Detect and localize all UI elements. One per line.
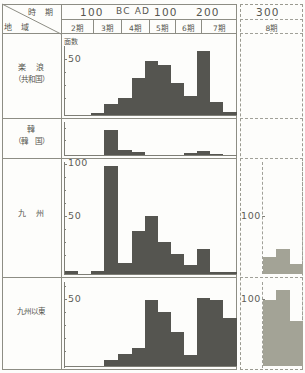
baseline-rakuro bbox=[64, 115, 237, 116]
region-label-east-kyushu-main: 九州以東 bbox=[2, 306, 60, 318]
bar-rakuro-4 bbox=[104, 104, 118, 115]
bar-rakuro-5 bbox=[118, 98, 132, 115]
period-cell-3: 3期 bbox=[93, 22, 121, 33]
baseline-kyushu bbox=[64, 274, 237, 275]
bar-rakuro-12 bbox=[210, 102, 223, 115]
bar-east-12 bbox=[210, 300, 223, 366]
row-sep-right-3 bbox=[240, 277, 303, 278]
region-column-separator bbox=[61, 33, 62, 370]
year-label-300ad: 300 bbox=[256, 6, 280, 18]
bar-kyushu-8 bbox=[158, 242, 171, 274]
region-label-kyushu: 九 州 bbox=[2, 208, 60, 220]
bar-han-11 bbox=[197, 151, 210, 155]
bar-east-13 bbox=[223, 318, 237, 366]
bar-kyushu-12 bbox=[210, 272, 223, 274]
bar-han-12 bbox=[210, 154, 223, 155]
period-sep-2-3 bbox=[93, 19, 94, 33]
bar-han-6 bbox=[132, 152, 145, 155]
bar-kyushu-11 bbox=[197, 249, 210, 274]
bar-kyushu-10 bbox=[184, 265, 197, 274]
bar-east-11 bbox=[197, 298, 210, 366]
region-label-kyushu-main: 九 州 bbox=[2, 208, 60, 220]
bar-east-5 bbox=[118, 354, 132, 366]
bar-kyushu-p8-3 bbox=[290, 264, 303, 274]
plot-panel-kyushu-period8 bbox=[263, 160, 303, 274]
plot-panel-east-period8 bbox=[263, 283, 303, 366]
bar-east-p8-1 bbox=[263, 300, 276, 366]
row-sep-right-1 bbox=[240, 118, 303, 119]
year-label-100bc: 100 bbox=[80, 6, 104, 18]
period-sep-4-5 bbox=[149, 19, 150, 33]
period-cell-4: 4期 bbox=[121, 22, 149, 33]
bar-east-6 bbox=[132, 348, 145, 366]
row-sep-rakuro-han bbox=[2, 118, 237, 119]
bar-rakuro-3 bbox=[91, 113, 104, 115]
header-rule-top-right bbox=[240, 19, 303, 20]
row-sep-right-2 bbox=[240, 158, 303, 159]
row-sep-han-kyushu bbox=[2, 158, 237, 159]
bar-east-7 bbox=[145, 300, 158, 366]
bar-han-5 bbox=[118, 150, 132, 155]
bar-han-10 bbox=[184, 153, 197, 155]
y-tick-label-right-east-100: 100 bbox=[241, 293, 261, 304]
bar-han-4 bbox=[104, 130, 118, 155]
bar-east-10 bbox=[184, 355, 197, 366]
period-sep-5-6 bbox=[175, 19, 176, 33]
figure-sheet: 時 期 地 域 100 BC AD 100 200 300 2期 3期 4期 5… bbox=[0, 0, 305, 373]
plot-panel-kyushu bbox=[65, 160, 237, 274]
period-sep-left-edge bbox=[61, 4, 62, 33]
region-label-han-sub: （韓 国） bbox=[2, 136, 60, 148]
bar-kyushu-1 bbox=[65, 271, 78, 274]
bar-rakuro-8 bbox=[158, 65, 171, 115]
period-cell-8: 8期 bbox=[240, 22, 303, 33]
region-label-rakuro: 楽 浪 （共和国） bbox=[2, 62, 60, 86]
bar-rakuro-6 bbox=[132, 78, 145, 115]
year-label-200ad: 200 bbox=[196, 6, 220, 18]
region-label-rakuro-sub: （共和国） bbox=[2, 74, 60, 86]
bar-kyushu-9 bbox=[171, 254, 184, 274]
period-cell-7: 7期 bbox=[201, 22, 237, 33]
bar-east-4 bbox=[104, 360, 118, 366]
bar-kyushu-4 bbox=[104, 166, 118, 274]
plot-panel-rakuro bbox=[65, 40, 237, 115]
bar-kyushu-p8-1 bbox=[263, 257, 276, 274]
bar-kyushu-p8-2 bbox=[276, 249, 290, 274]
period-cell-5: 5期 bbox=[149, 22, 175, 33]
y-tick-label-right-kyushu-100: 100 bbox=[241, 210, 261, 221]
bar-kyushu-5 bbox=[118, 263, 132, 274]
baseline-han bbox=[64, 155, 237, 156]
bar-east-9 bbox=[171, 332, 184, 366]
header-time-label: 時 期 bbox=[28, 6, 54, 17]
bar-rakuro-13 bbox=[223, 112, 237, 115]
region-label-rakuro-main: 楽 浪 bbox=[2, 62, 60, 74]
header-rule-bottom bbox=[2, 33, 237, 34]
bar-east-p8-2 bbox=[276, 290, 290, 366]
plot-panel-han bbox=[65, 120, 237, 155]
bar-kyushu-3 bbox=[91, 271, 104, 274]
region-label-han: 韓 （韓 国） bbox=[2, 124, 60, 148]
bar-rakuro-11 bbox=[197, 51, 210, 115]
period-cell-2: 2期 bbox=[61, 22, 93, 33]
baseline-east bbox=[64, 366, 237, 367]
header-rule-bottom-right bbox=[240, 33, 303, 34]
bar-east-8 bbox=[158, 312, 171, 366]
bar-kyushu-6 bbox=[132, 231, 145, 274]
bar-rakuro-9 bbox=[171, 83, 184, 115]
period-sep-6-7 bbox=[201, 19, 202, 33]
period-cell-6: 6期 bbox=[175, 22, 201, 33]
region-label-han-main: 韓 bbox=[2, 124, 60, 136]
bar-kyushu-13 bbox=[223, 272, 237, 274]
region-label-east-kyushu: 九州以東 bbox=[2, 306, 60, 318]
year-label-100ad: 100 bbox=[154, 6, 178, 18]
period-sep-3-4 bbox=[121, 19, 122, 33]
bar-rakuro-7 bbox=[145, 61, 158, 115]
bar-rakuro-10 bbox=[184, 96, 197, 115]
bar-east-p8-3 bbox=[290, 321, 303, 366]
header-region-label: 地 域 bbox=[4, 21, 30, 32]
plot-panel-east-kyushu bbox=[65, 283, 237, 366]
bar-kyushu-7 bbox=[145, 216, 158, 274]
year-label-bcad: BC AD bbox=[116, 6, 150, 16]
row-sep-kyushu-east bbox=[2, 277, 237, 278]
